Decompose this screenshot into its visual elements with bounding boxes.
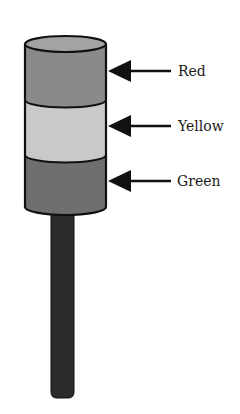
yellow-light-segment [25, 100, 106, 163]
mounting-pole [51, 210, 74, 398]
light-tower-cylinder [25, 36, 106, 215]
arrow-red [108, 60, 171, 82]
arrow-yellow-head-icon [108, 115, 131, 137]
label-green: Green [177, 173, 220, 189]
arrow-green [108, 170, 171, 192]
arrow-red-head-icon [108, 60, 131, 82]
label-yellow: Yellow [177, 118, 224, 134]
stack-light-diagram: Red Yellow Green [0, 0, 240, 414]
pole-body [51, 210, 74, 398]
arrow-green-head-icon [108, 170, 131, 192]
label-red: Red [178, 63, 206, 79]
red-light-segment [25, 44, 106, 108]
green-light-segment [25, 155, 106, 215]
arrow-yellow [108, 115, 171, 137]
cylinder-top-cap [25, 36, 106, 52]
